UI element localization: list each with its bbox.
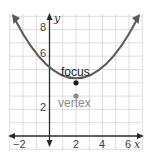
x-axis-label: x: [134, 138, 141, 151]
focus-point: [73, 80, 78, 85]
y-tick-2: 2: [40, 101, 46, 113]
y-tick-8: 8: [40, 21, 46, 33]
vertex-label: vertex: [58, 96, 91, 110]
y-axis: [47, 13, 53, 147]
y-axis-label: y: [53, 12, 61, 25]
parabola-chart: focus vertex −2 2 4 6 x 8 6 2 y: [0, 0, 150, 159]
x-tick-4: 4: [99, 138, 105, 150]
x-tick-6: 6: [125, 138, 131, 150]
focus-label: focus: [61, 65, 90, 79]
y-tick-6: 6: [40, 47, 46, 59]
x-tick-2: 2: [73, 138, 79, 150]
x-tick-neg2: −2: [13, 138, 26, 150]
